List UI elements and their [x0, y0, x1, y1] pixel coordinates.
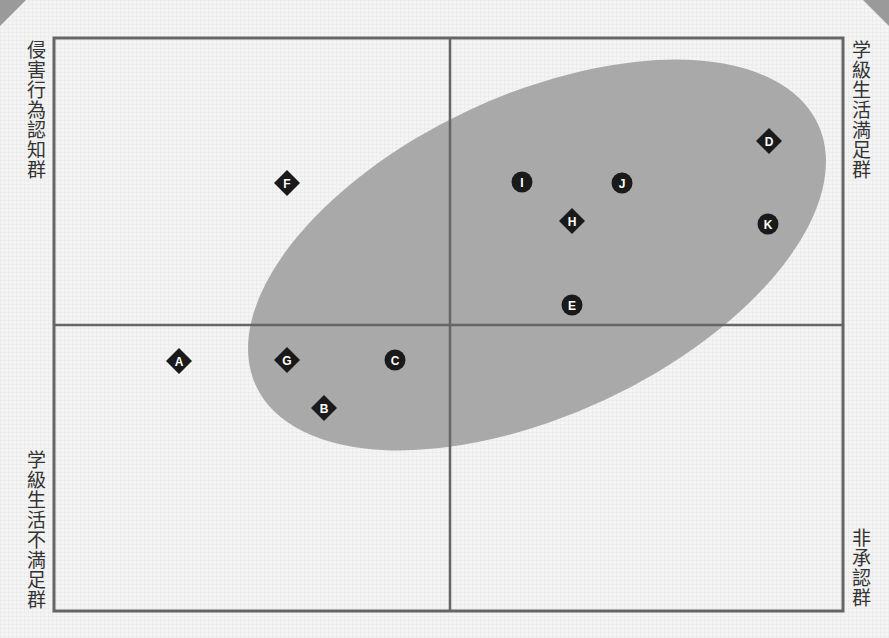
data-point-j: J	[612, 173, 633, 194]
point-label: B	[320, 402, 329, 416]
quadrant-chart: ABCDEFGHIJK	[0, 0, 889, 638]
data-point-f: F	[274, 170, 300, 196]
point-label: A	[175, 355, 184, 369]
data-point-e: E	[562, 295, 583, 316]
data-point-a: A	[166, 348, 192, 374]
point-label: I	[520, 176, 523, 190]
highlight-ellipse	[188, 0, 885, 531]
point-label: G	[282, 354, 291, 368]
data-point-k: K	[758, 214, 779, 235]
data-point-i: I	[512, 172, 533, 193]
point-label: C	[391, 354, 400, 368]
point-label: K	[764, 218, 773, 232]
highlight-ellipse-shape	[188, 0, 885, 531]
point-label: J	[619, 177, 626, 191]
point-label: F	[283, 177, 290, 191]
point-label: E	[568, 299, 576, 313]
data-point-c: C	[385, 350, 406, 371]
point-label: H	[568, 215, 577, 229]
point-label: D	[765, 135, 774, 149]
